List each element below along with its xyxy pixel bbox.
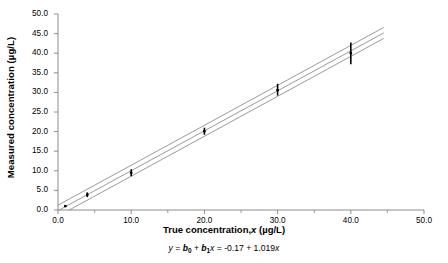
data-point-4: [276, 89, 279, 91]
confidence-lower-line: [69, 38, 383, 210]
regression-line: [59, 33, 384, 210]
data-point-1: [86, 194, 89, 196]
x-axis-title-main: True concentration,: [163, 224, 251, 235]
regression-equation: y = b0 + b1x = -0.17 + 1.019x: [0, 243, 448, 254]
data-point-0: [64, 205, 67, 207]
x-axis-title-variable: x: [251, 224, 256, 235]
regression-and-confidence-lines: [58, 27, 384, 210]
axis-tick-marks: [54, 14, 424, 214]
equation-x1: x: [210, 243, 214, 253]
error-bars: [65, 43, 350, 208]
x-axis-title-unit: (µg/L): [259, 224, 285, 235]
equation-b0-sub: 0: [188, 247, 192, 254]
equation-b0: b0: [183, 243, 192, 253]
confidence-upper-line: [58, 27, 384, 205]
data-point-5: [350, 52, 353, 54]
equation-b1: b1: [201, 243, 210, 253]
chart-figure: Measured concentration (µg/L) 0.05.010.0…: [0, 0, 448, 263]
data-point-2: [130, 172, 133, 174]
equation-values: -0.17 + 1.019: [224, 243, 275, 253]
equation-x2: x: [275, 243, 279, 253]
equation-y: y: [169, 243, 173, 253]
data-point-3: [203, 130, 206, 132]
x-axis-title: True concentration,x (µg/L): [0, 224, 448, 235]
